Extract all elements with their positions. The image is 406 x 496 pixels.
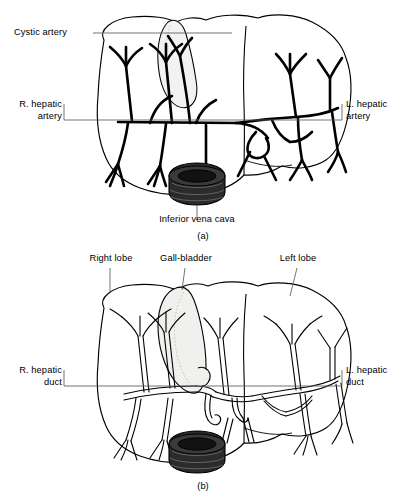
inferior-vena-cava-stump bbox=[169, 163, 225, 205]
label-right-hepatic-artery: R. hepatic artery bbox=[0, 99, 62, 122]
label-gall-bladder: Gall-bladder bbox=[141, 253, 231, 265]
label-inferior-vena-cava: Inferior vena cava bbox=[122, 214, 272, 226]
illustration-page: Cystic artery R. hepatic artery L. hepat… bbox=[0, 0, 406, 496]
caption-figure-b: (b) bbox=[0, 481, 406, 491]
label-left-hepatic-artery: L. hepatic artery bbox=[346, 99, 406, 122]
label-left-lobe: Left lobe bbox=[259, 253, 337, 265]
liver-outline bbox=[97, 15, 351, 195]
caption-figure-a: (a) bbox=[0, 231, 406, 241]
label-right-lobe: Right lobe bbox=[70, 253, 152, 265]
figure-a: Cystic artery R. hepatic artery L. hepat… bbox=[0, 0, 406, 248]
figure-b: Right lobe Gall-bladder Left lobe R. hep… bbox=[0, 248, 406, 496]
label-right-hepatic-duct: R. hepatic duct bbox=[0, 365, 62, 388]
label-left-hepatic-duct: L. hepatic duct bbox=[346, 365, 406, 388]
label-cystic-artery: Cystic artery bbox=[14, 27, 94, 39]
inferior-vena-cava-stump bbox=[169, 431, 225, 473]
